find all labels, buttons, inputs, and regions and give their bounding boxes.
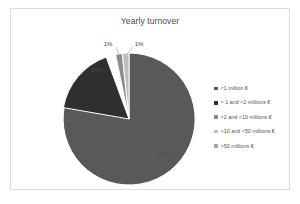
legend-item-label: <1 million € <box>221 85 248 92</box>
legend-item[interactable]: >10 and <50 millions € <box>214 126 300 137</box>
legend-swatch-icon <box>214 144 218 148</box>
legend-swatch-icon <box>214 101 218 105</box>
legend-item-label: >10 and <50 millions € <box>221 128 275 135</box>
legend-item-label: > 1 and <2 millions € <box>221 99 271 106</box>
legend-item[interactable]: <1 million € <box>214 83 300 94</box>
legend: <1 million € > 1 and <2 millions € <2 an… <box>214 83 300 155</box>
legend-item-label: >50 millions € <box>221 143 254 150</box>
chart-title: Yearly turnover <box>11 16 289 26</box>
legend-item[interactable]: >50 millions € <box>214 141 300 152</box>
pie-label-major: 87% <box>159 151 172 157</box>
legend-item[interactable]: <2 and <10 millions € <box>214 112 300 123</box>
legend-swatch-icon <box>214 130 218 134</box>
legend-item[interactable]: > 1 and <2 millions € <box>214 97 300 108</box>
pie-svg: 1% 1% 10% 87% <box>53 35 205 185</box>
pie-chart: 1% 1% 10% 87% <box>53 35 205 185</box>
pie-label-sliver-right: 1% <box>135 41 144 47</box>
chart-card: Yearly turnover 1% 1% 10% 87% <1 million… <box>10 8 290 190</box>
legend-swatch-icon <box>214 115 218 119</box>
pie-label-mid: 10% <box>91 67 104 73</box>
pie-label-sliver-left: 1% <box>104 41 113 47</box>
legend-swatch-icon <box>214 87 218 91</box>
legend-item-label: <2 and <10 millions € <box>221 114 272 121</box>
pie-slices <box>63 53 195 185</box>
